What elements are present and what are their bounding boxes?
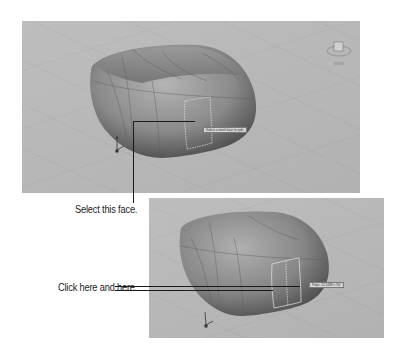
viewcube-icon[interactable] <box>324 34 354 69</box>
callout-line-click-point-2 <box>115 290 273 291</box>
ucs-icon <box>201 310 219 332</box>
ucs-icon <box>112 135 132 157</box>
callout-label-select-face: Select this face. <box>75 203 137 215</box>
polar-tracking-tooltip: Polar: 12.5189 < 90° <box>309 282 344 288</box>
command-tooltip: Select a mesh face to split. <box>203 127 247 133</box>
callout-line-select-face-horizontal <box>133 121 195 122</box>
callout-line-click-point-1 <box>115 286 300 287</box>
viewport-before[interactable]: Select a mesh face to split. <box>22 21 360 193</box>
callout-label-click-here: Click here and here. <box>58 281 137 293</box>
mesh-box-model-split[interactable] <box>149 198 384 338</box>
callout-line-select-face <box>133 121 134 203</box>
mesh-box-model[interactable] <box>22 21 360 193</box>
viewport-after[interactable]: Polar: 12.5189 < 90° <box>149 198 384 338</box>
